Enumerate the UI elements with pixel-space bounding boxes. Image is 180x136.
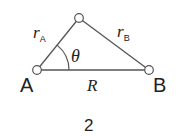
node-b (145, 66, 154, 75)
edge-rb (79, 18, 149, 70)
figure-number: 2 (84, 116, 93, 135)
label-r: R (86, 76, 98, 95)
label-a: A (20, 74, 34, 96)
node-top (75, 14, 84, 23)
label-b: B (153, 74, 166, 96)
label-theta: θ (71, 46, 80, 66)
triangle-diagram: rA rB θ R A B 2 (0, 0, 180, 136)
angle-arc (57, 45, 69, 70)
label-ra: rA (33, 23, 46, 44)
node-a (33, 66, 42, 75)
label-rb: rB (117, 22, 130, 43)
